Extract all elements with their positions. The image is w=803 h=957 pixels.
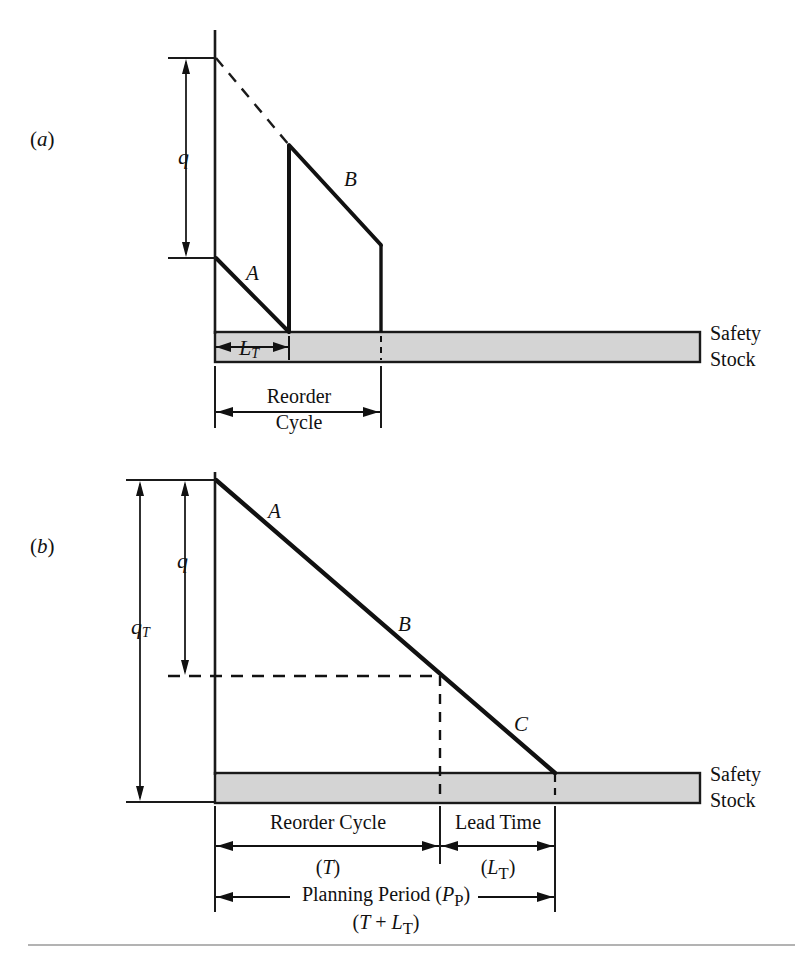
figure-root: (a) q A B LT Reorder Cycle Safety Stock … [0, 0, 803, 957]
q-dimension-arrow-b [181, 481, 189, 675]
inventory-curve-a-segment-b [289, 145, 381, 245]
qt-label-b: qT [131, 615, 150, 640]
panel-a-tag: (a) [30, 128, 55, 150]
inventory-curve-b [216, 480, 555, 773]
curve-label-b-segment-a: A [268, 500, 281, 522]
panel-b-tag: (b) [30, 535, 55, 557]
panel-a-graphics [168, 30, 700, 428]
projected-depletion-dashed-a [216, 58, 289, 145]
q-label-a: q [178, 145, 189, 168]
planning-period-formula-b: (T + LT) [300, 912, 472, 938]
safety-stock-label-b-line1: Safety [710, 762, 761, 788]
planning-period-label-b: Planning Period (PP) [294, 884, 478, 910]
curve-label-a-segment-b: B [344, 168, 357, 190]
curve-label-b-segment-b: B [398, 613, 411, 635]
curve-label-a-segment-a: A [246, 262, 259, 284]
reorder-cycle-dimension-b [216, 841, 439, 851]
curve-label-b-segment-c: C [514, 713, 528, 735]
safety-stock-label-a-line2: Stock [710, 347, 756, 373]
reorder-cycle-label-a-line2: Cycle [236, 412, 362, 433]
reorder-cycle-symbol-b: (T) [222, 857, 434, 878]
qt-dimension-arrow-b [136, 481, 144, 801]
reorder-cycle-label-b: Reorder Cycle [222, 812, 434, 833]
q-label-b: q [177, 549, 188, 572]
safety-stock-band-b [215, 773, 700, 803]
lead-time-label-a: LT [239, 336, 259, 361]
panel-b-graphics [126, 472, 700, 912]
lead-time-symbol-b: (LT) [446, 857, 550, 883]
safety-stock-label-b-line2: Stock [710, 788, 756, 814]
lead-time-label-b: Lead Time [446, 812, 550, 833]
reorder-cycle-label-a-line1: Reorder [236, 386, 362, 407]
safety-stock-label-a-line1: Safety [710, 321, 761, 347]
lead-time-dimension-b [441, 841, 554, 851]
